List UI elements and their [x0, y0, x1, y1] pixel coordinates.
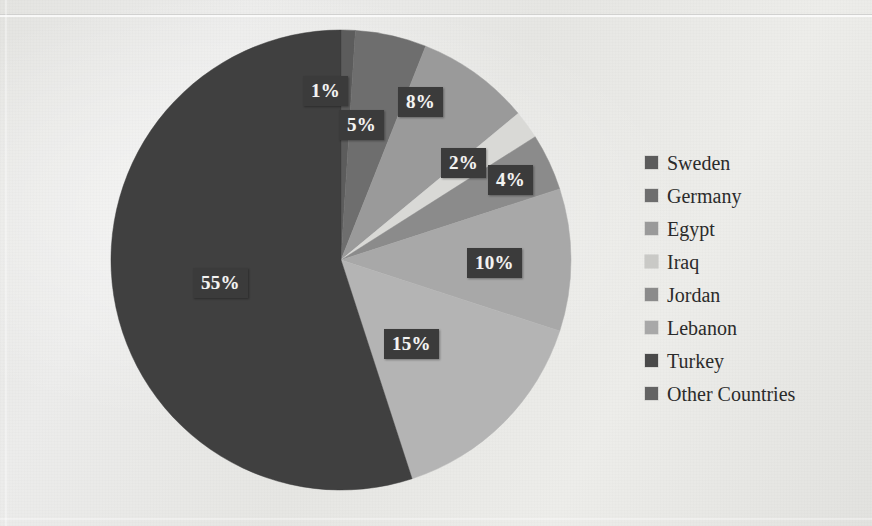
legend-item-other-countries[interactable]: Other Countries [645, 377, 855, 410]
legend-item-lebanon[interactable]: Lebanon [645, 311, 855, 344]
data-label-other-countries: 55% [193, 268, 248, 298]
legend-item-sweden[interactable]: Sweden [645, 146, 855, 179]
legend-swatch-turkey [645, 354, 658, 367]
legend-swatch-other-countries [645, 387, 658, 400]
legend-label-lebanon: Lebanon [667, 318, 737, 338]
legend-item-egypt[interactable]: Egypt [645, 212, 855, 245]
legend-swatch-lebanon [645, 321, 658, 334]
legend-item-iraq[interactable]: Iraq [645, 245, 855, 278]
legend-swatch-germany [645, 189, 658, 202]
legend-label-other-countries: Other Countries [667, 384, 795, 404]
legend-item-jordan[interactable]: Jordan [645, 278, 855, 311]
data-label-turkey: 15% [384, 329, 439, 359]
legend: Sweden Germany Egypt Iraq Jordan Lebanon… [645, 146, 855, 410]
data-label-jordan: 4% [488, 165, 533, 195]
data-label-iraq: 2% [441, 148, 486, 178]
legend-swatch-jordan [645, 288, 658, 301]
data-label-egypt: 8% [398, 87, 443, 117]
data-label-lebanon: 10% [467, 248, 522, 278]
data-label-germany: 5% [339, 110, 384, 140]
legend-swatch-egypt [645, 222, 658, 235]
data-label-sweden: 1% [303, 76, 348, 106]
legend-label-egypt: Egypt [667, 219, 715, 239]
legend-swatch-iraq [645, 255, 658, 268]
legend-label-jordan: Jordan [667, 285, 720, 305]
pie-chart: 1% 5% 8% 2% 4% 10% 15% 55% Sweden German… [0, 0, 872, 526]
legend-item-germany[interactable]: Germany [645, 179, 855, 212]
legend-label-sweden: Sweden [667, 153, 730, 173]
legend-label-germany: Germany [667, 186, 741, 206]
legend-swatch-sweden [645, 156, 658, 169]
legend-item-turkey[interactable]: Turkey [645, 344, 855, 377]
legend-label-turkey: Turkey [667, 351, 724, 371]
legend-label-iraq: Iraq [667, 252, 699, 272]
